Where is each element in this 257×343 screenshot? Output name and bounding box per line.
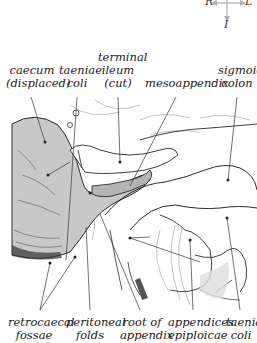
orientation-inferior-label: I — [224, 18, 228, 31]
label-taenia-coli-bottom: taenia coli — [226, 316, 256, 342]
label-retrocaecal-fossae: retrocaecal fossae — [8, 316, 60, 342]
appendix-shape — [92, 170, 152, 197]
orientation-right-label: R — [205, 0, 213, 8]
orientation-left-label: L — [245, 0, 252, 8]
label-sigmoid-colon: sigmoid colon — [218, 64, 256, 90]
label-peritoneal-folds: peritoneal folds — [66, 316, 114, 342]
terminal-ileum-shape — [70, 145, 178, 174]
label-caecum: caecum (displaced) — [6, 64, 58, 90]
label-appendices-epiploicae: appendices epiploicae — [168, 316, 220, 342]
appendix-anatomy-diagram: R L I caecum (displaced) taeniae coli te… — [0, 0, 257, 343]
label-taeniae-coli-top: taeniae coli — [59, 64, 95, 90]
label-root-of-appendix: root of appendix — [120, 316, 164, 342]
orientation-compass-icon — [211, 0, 246, 22]
label-mesoappendix: mesoappendix — [145, 77, 209, 90]
label-terminal-ileum: terminal ileum (cut) — [98, 51, 138, 90]
